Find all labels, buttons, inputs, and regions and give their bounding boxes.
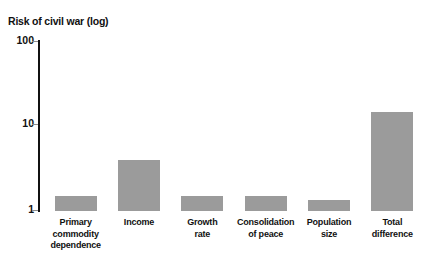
bar-label-5: Populationsize (297, 217, 360, 240)
bar-rect (245, 196, 287, 211)
bar-rect (181, 196, 223, 211)
bar-5[interactable] (308, 200, 350, 211)
bar-rect (118, 160, 160, 211)
bar-1[interactable] (55, 196, 97, 211)
bar-label-line: size (297, 229, 360, 241)
bar-label-line: Primary (44, 217, 107, 229)
bar-rect (371, 112, 413, 211)
bar-label-line: Total (361, 217, 424, 229)
bar-label-line: difference (361, 229, 424, 241)
bar-label-line: Population (297, 217, 360, 229)
bar-label-1: Primarycommoditydependence (44, 217, 107, 252)
bar-label-line: Consolidation (234, 217, 297, 229)
bar-label-line: Income (107, 217, 170, 229)
bar-label-line: commodity (44, 229, 107, 241)
bar-4[interactable] (245, 196, 287, 211)
bar-rect (308, 200, 350, 211)
bar-label-6: Totaldifference (361, 217, 424, 240)
bar-label-line: dependence (44, 240, 107, 252)
bar-3[interactable] (181, 196, 223, 211)
bar-label-3: Growthrate (171, 217, 234, 240)
bar-label-line: rate (171, 229, 234, 241)
chart-figure: Risk of civil war (log) 100 10 1 Primary… (0, 0, 428, 264)
bar-label-4: Consolidationof peace (234, 217, 297, 240)
bar-label-line: Growth (171, 217, 234, 229)
bars-layer: PrimarycommoditydependenceIncomeGrowthra… (0, 0, 428, 264)
bar-rect (55, 196, 97, 211)
bar-2[interactable] (118, 160, 160, 211)
bar-6[interactable] (371, 112, 413, 211)
bar-label-2: Income (107, 217, 170, 229)
bar-label-line: of peace (234, 229, 297, 241)
